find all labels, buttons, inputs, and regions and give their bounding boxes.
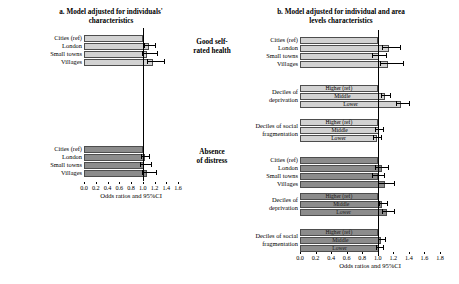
ci-cap-low: [375, 127, 376, 132]
bar-row: Villages: [0, 60, 459, 68]
ci-cap-high: [400, 45, 401, 50]
bar-inline-label: Lower: [300, 209, 387, 216]
block-label-panel-b-4: Deciles of: [188, 196, 298, 204]
ci-line: [396, 103, 410, 104]
ci-cap-low: [372, 173, 373, 178]
ci-cap-high: [388, 165, 389, 170]
bar-inline-label: Lower: [300, 245, 379, 252]
ci-cap-high: [383, 127, 384, 132]
bar: [300, 37, 378, 44]
ci-cap-high: [384, 173, 385, 178]
reference-line: [378, 30, 379, 256]
bar: [300, 173, 378, 180]
bar-row: Small towns: [0, 172, 459, 180]
ci-line: [380, 63, 404, 64]
outcome-label-2-line2: of distress: [182, 157, 242, 166]
block-label-panel-b-4: deprivation: [188, 204, 298, 212]
outcome-label-1-line2: rated health: [182, 47, 242, 56]
ci-cap-high: [383, 245, 384, 250]
outcome-label-2: Absence: [182, 148, 242, 157]
bar: [300, 45, 389, 52]
bar-inline-label: Middle: [300, 237, 381, 244]
bar-inline-label: Higher (ref): [300, 193, 378, 200]
ci-cap-low: [372, 53, 373, 58]
bar: [300, 61, 388, 68]
bar-row-label: Small towns: [220, 172, 298, 180]
ci-cap-low: [373, 135, 374, 140]
ci-cap-high: [385, 237, 386, 242]
ci-cap-high: [386, 53, 387, 58]
bar-inline-label: Lower: [300, 135, 377, 142]
x-tick-label: 1.8: [429, 254, 451, 261]
block-label-panel-b-2: fragmentation: [188, 130, 298, 138]
bar-inline-label: Lower: [300, 101, 401, 108]
outcome-label-1: Good self-: [182, 38, 242, 47]
ci-line: [378, 183, 395, 184]
ci-cap-low: [381, 93, 382, 98]
ci-line: [372, 55, 388, 56]
bar-row-label: Villages: [220, 180, 298, 188]
ci-line: [382, 47, 401, 48]
bar-inline-label: Middle: [300, 201, 382, 208]
bar: [300, 165, 382, 172]
block-label-panel-b-2: Deciles of social: [188, 122, 298, 130]
bar-inline-label: Higher (ref): [300, 229, 378, 236]
ci-cap-low: [382, 209, 383, 214]
panel-title-line-2: levels characteristics: [228, 17, 454, 26]
ci-cap-low: [382, 45, 383, 50]
ci-cap-high: [387, 201, 388, 206]
ci-cap-low: [375, 165, 376, 170]
bar-inline-label: Middle: [300, 93, 385, 100]
ci-cap-high: [394, 181, 395, 186]
x-axis-label: Odds ratios and 95%CI: [260, 262, 459, 270]
bar-row-label: Villages: [220, 60, 298, 68]
block-label-panel-b-1: Deciles of: [188, 88, 298, 96]
block-label-panel-b-1: deprivation: [188, 96, 298, 104]
ci-cap-low: [380, 61, 381, 66]
block-label-panel-b-5: fragmentation: [188, 240, 298, 248]
ci-cap-high: [403, 61, 404, 66]
bar: [300, 157, 378, 164]
bar-inline-label: Higher (ref): [300, 119, 378, 126]
bar-row: Villages: [0, 180, 459, 188]
bar: [300, 181, 385, 188]
ci-cap-high: [409, 101, 410, 106]
ci-cap-high: [394, 209, 395, 214]
ci-cap-high: [390, 93, 391, 98]
bar: [300, 53, 379, 60]
panel-title-line-1: b. Model adjusted for individual and are…: [228, 8, 454, 17]
bar-inline-label: Middle: [300, 127, 379, 134]
block-label-panel-b-5: Deciles of social: [188, 232, 298, 240]
bar-inline-label: Higher (ref): [300, 85, 378, 92]
ci-cap-low: [396, 101, 397, 106]
figure-root: a. Model adjusted for individuals'charac…: [0, 0, 459, 284]
ci-cap-high: [381, 135, 382, 140]
